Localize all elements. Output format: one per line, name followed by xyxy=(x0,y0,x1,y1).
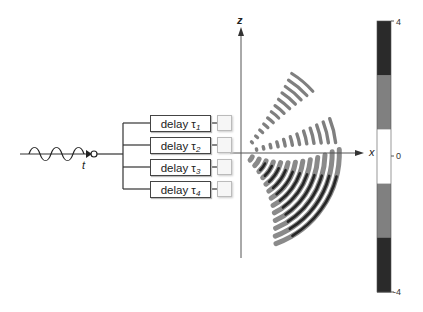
z-axis-arrow-icon xyxy=(238,27,244,36)
z-axis-label: z xyxy=(237,14,243,26)
antenna-element-3 xyxy=(217,159,232,175)
antenna-element-2 xyxy=(217,137,232,153)
antenna-element-1 xyxy=(217,115,232,131)
delay-box-3: delay τ3 xyxy=(150,159,211,176)
antenna-element-4 xyxy=(217,181,232,197)
delay-box-2: delay τ2 xyxy=(150,137,211,154)
colorbar-mid-label: 0 xyxy=(396,151,401,161)
colorbar-min-label: -4 xyxy=(393,287,401,297)
x-axis-arrow-icon xyxy=(355,150,364,156)
phased-array-diagram: t delay τ1 delay τ2 delay τ3 delay τ4 z … xyxy=(0,0,423,312)
colorbar-max-label: 4 xyxy=(396,17,401,27)
switch-icon xyxy=(91,151,97,157)
beam-pattern xyxy=(250,74,339,244)
diagram-graphics xyxy=(0,0,423,312)
colorbar xyxy=(377,21,391,293)
delay-box-1: delay τ1 xyxy=(150,115,211,132)
delay-box-4: delay τ4 xyxy=(150,181,211,198)
source-time-label: t xyxy=(82,159,85,171)
x-axis-label: x xyxy=(369,146,375,158)
